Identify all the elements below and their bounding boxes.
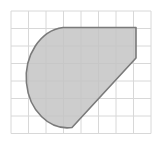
figure-container: Shaded composite region on grid [0, 0, 165, 148]
geometry-figure-svg [0, 0, 165, 148]
